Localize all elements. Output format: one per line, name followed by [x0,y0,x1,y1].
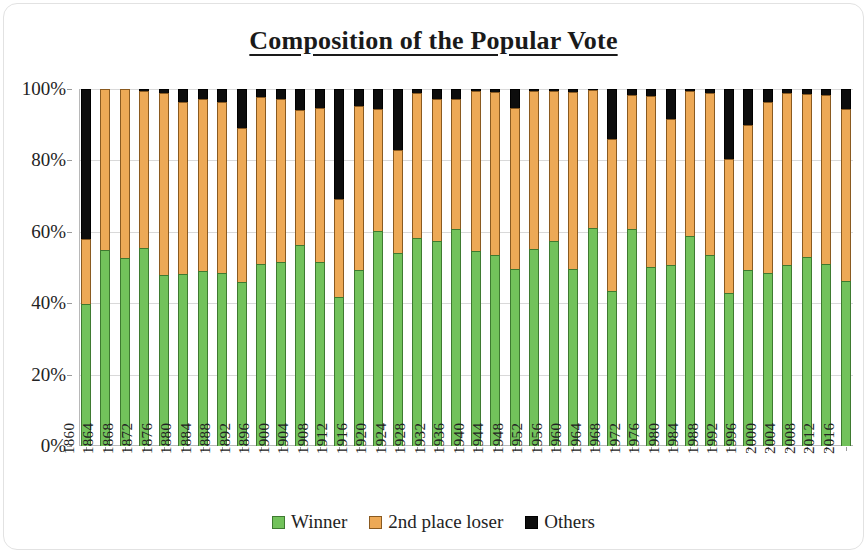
bar-segment-winner [217,273,227,447]
legend-item[interactable]: 2nd place loser [369,511,503,533]
bar-column[interactable] [471,89,481,446]
bar-column[interactable] [393,89,403,446]
bar-segment-second-place [666,119,676,265]
bar-column[interactable] [568,89,578,446]
x-axis-slot: 1876 [159,447,169,505]
bar-segment-second-place [724,159,734,293]
bar-column[interactable] [763,89,773,446]
bar-segment-second-place [743,125,753,270]
x-axis-slot: 1944 [490,447,500,505]
bar-column[interactable] [159,89,169,446]
x-axis-slot: 1924 [393,447,403,505]
bar-column[interactable] [743,89,753,446]
bar-segment-winner [159,275,169,446]
bar-segment-winner [802,257,812,446]
bar-segment-others [743,89,753,125]
x-axis-slot: 1952 [529,447,539,505]
legend-item[interactable]: Others [525,511,595,533]
chart-legend: Winner2nd place loserOthers [0,511,867,533]
bar-segment-others [763,89,773,102]
y-axis-tick [67,160,72,161]
bar-column[interactable] [451,89,461,446]
bar-column[interactable] [178,89,188,446]
x-axis-slot: 1888 [217,447,227,505]
bar-segment-winner [471,251,481,446]
x-axis-slot: 1904 [295,447,305,505]
bar-column[interactable] [666,89,676,446]
bar-column[interactable] [276,89,286,446]
bar-column[interactable] [412,89,422,446]
x-axis-slot: 1908 [315,447,325,505]
bar-segment-second-place [646,96,656,267]
bar-segment-second-place [354,106,364,271]
bar-column[interactable] [295,89,305,446]
legend-item[interactable]: Winner [272,511,347,533]
bar-column[interactable] [588,89,598,446]
bar-segment-others [510,89,520,108]
x-axis-slot: 1872 [139,447,149,505]
x-axis-tick-label: 1908 [294,423,311,454]
bar-column[interactable] [198,89,208,446]
bar-column[interactable] [685,89,695,446]
bar-column[interactable] [256,89,266,446]
x-axis-tick-label: 1916 [333,423,350,454]
bar-segment-winner [529,249,539,446]
bar-segment-others [724,89,734,159]
bar-column[interactable] [100,89,110,446]
bar-segment-second-place [705,93,715,256]
bar-column[interactable] [81,89,91,446]
bar-column[interactable] [802,89,812,446]
bar-segment-others [334,89,344,199]
x-axis-slot: 1988 [705,447,715,505]
bar-column[interactable] [432,89,442,446]
bar-column[interactable] [120,89,130,446]
bar-segment-winner [276,262,286,446]
x-axis-slot: 2016 [841,447,851,505]
x-axis-slot: 1864 [100,447,110,505]
bar-segment-others [393,89,403,150]
x-axis-tick-label: 2008 [781,423,798,454]
bar-column[interactable] [139,89,149,446]
bar-column[interactable] [841,89,851,446]
bar-column[interactable] [315,89,325,446]
x-axis-tick-label: 1868 [99,423,116,454]
bar-column[interactable] [627,89,637,446]
bar-column[interactable] [724,89,734,446]
bar-column[interactable] [646,89,656,446]
bar-segment-winner [549,241,559,446]
bar-column[interactable] [354,89,364,446]
x-axis-slot: 1992 [724,447,734,505]
bar-segment-second-place [432,99,442,241]
bar-segment-second-place [549,91,559,241]
bar-column[interactable] [373,89,383,446]
bar-segment-others [607,89,617,139]
bar-segment-winner [237,282,247,446]
bar-column[interactable] [217,89,227,446]
x-axis-slot: 1980 [666,447,676,505]
bar-segment-second-place [139,91,149,247]
chart-figure: Composition of the Popular Vote 0%20%40%… [0,0,867,553]
bar-column[interactable] [510,89,520,446]
x-axis-tick-label: 1968 [587,423,604,454]
bar-segment-winner [490,255,500,446]
bar-column[interactable] [705,89,715,446]
bar-column[interactable] [334,89,344,446]
x-axis-tick-label: 2012 [801,423,818,454]
bar-column[interactable] [529,89,539,446]
bar-segment-winner [432,241,442,446]
bar-segment-second-place [159,93,169,275]
bar-column[interactable] [607,89,617,446]
bar-segment-second-place [588,90,598,227]
y-axis-tick [67,375,72,376]
y-axis-tick-label: 100% [22,78,66,100]
bar-column[interactable] [821,89,831,446]
bar-segment-winner [120,258,130,446]
y-axis-tick-label: 80% [31,149,66,171]
bar-segment-winner [821,264,831,446]
bar-column[interactable] [549,89,559,446]
x-axis-slot: 2012 [821,447,831,505]
bar-column[interactable] [490,89,500,446]
x-axis-tick-label: 1928 [392,423,409,454]
bar-column[interactable] [782,89,792,446]
bar-column[interactable] [237,89,247,446]
